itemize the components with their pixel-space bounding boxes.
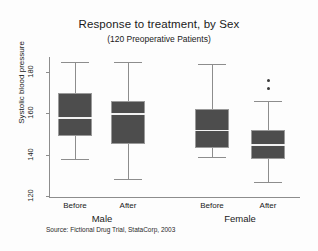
outlier-point — [267, 79, 270, 82]
lower-whisker — [128, 144, 129, 179]
iqr-box — [111, 101, 145, 144]
x-tick-label: After — [98, 201, 158, 210]
group-label-male: Male — [62, 213, 142, 224]
lower-whisker — [268, 159, 269, 182]
x-tick-label: Before — [45, 201, 105, 210]
median-line — [111, 113, 145, 115]
source-note: Source: Fictional Drug Trial, StataCorp,… — [46, 226, 175, 233]
upper-whisker — [128, 62, 129, 101]
lower-whisker — [75, 136, 76, 159]
median-line — [58, 117, 92, 119]
chart-title: Response to treatment, by Sex — [0, 18, 318, 30]
median-line — [195, 130, 229, 132]
lower-whisker-cap — [114, 179, 142, 180]
upper-whisker — [268, 101, 269, 130]
iqr-box — [58, 93, 92, 136]
upper-whisker-cap — [61, 62, 89, 63]
y-tick-label: 140 — [26, 143, 35, 165]
chart-subtitle: (120 Preoperative Patients) — [0, 34, 318, 44]
upper-whisker-cap — [114, 62, 142, 63]
lower-whisker-cap — [61, 159, 89, 160]
y-tick-label: 180 — [26, 61, 35, 83]
outlier-point — [267, 87, 270, 90]
iqr-box — [195, 109, 229, 148]
group-label-female: Female — [200, 213, 280, 224]
y-axis-line — [49, 57, 50, 197]
y-tick-label: 160 — [26, 102, 35, 124]
x-axis-line — [49, 197, 300, 198]
boxplot-chart: Response to treatment, by Sex (120 Preop… — [0, 0, 318, 251]
y-tick-label: 120 — [26, 185, 35, 207]
lower-whisker — [212, 148, 213, 156]
x-tick-label: Before — [182, 201, 242, 210]
upper-whisker-cap — [198, 64, 226, 65]
upper-whisker — [75, 62, 76, 93]
median-line — [251, 144, 285, 146]
upper-whisker-cap — [254, 101, 282, 102]
y-axis-label: Systolic blood pressure — [17, 18, 26, 148]
lower-whisker-cap — [198, 157, 226, 158]
upper-whisker — [212, 64, 213, 109]
lower-whisker-cap — [254, 182, 282, 183]
x-tick-label: After — [238, 201, 298, 210]
